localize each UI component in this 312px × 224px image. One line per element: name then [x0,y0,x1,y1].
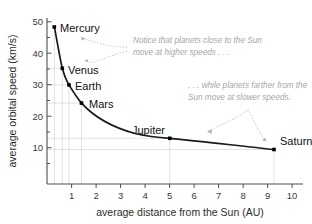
data-point-saturn[interactable] [272,148,276,152]
leader-to-mercury [82,38,127,47]
x-tick-label-3: 3 [118,190,123,201]
x-tick-label-1: 1 [69,190,74,201]
x-tick-label-7: 7 [216,190,221,201]
y-axis-title: average orbital speed (km/s) [6,34,18,167]
y-tick-label-30: 30 [32,79,43,90]
leader-to-jupiter [208,110,248,131]
data-point-earth[interactable] [67,83,71,87]
orbital-speed-chart: 50 40 30 20 10 1 2 3 4 5 6 7 8 9 10 aver… [0,0,312,224]
x-tick-label-10: 10 [287,190,298,201]
annotation-outer-line1: . . . while planets farther from the [188,81,308,90]
data-point-mars[interactable] [80,101,84,105]
x-tick-label-8: 8 [240,190,245,201]
y-tick-label-50: 50 [32,16,43,27]
arrowhead-mercury-icon [81,37,86,41]
arrowhead-jupiter-icon [207,129,212,134]
x-tick-label-5: 5 [167,190,172,201]
data-label-mercury: Mercury [60,22,100,34]
leader-to-venus [89,51,127,63]
x-axis-ticks [72,184,293,188]
data-point-jupiter[interactable] [168,137,172,141]
y-tick-label-20: 20 [32,111,43,122]
data-label-earth: Earth [75,80,101,92]
data-label-venus: Venus [68,64,99,76]
y-tick-label-40: 40 [32,48,43,59]
leader-to-saturn [248,110,266,141]
annotation-inner-line2: move at higher speeds . . . [133,48,229,57]
x-tick-label-2: 2 [93,190,98,201]
data-label-saturn: Saturn [280,135,312,147]
data-label-jupiter: Jupiter [132,124,165,136]
data-point-venus[interactable] [61,67,65,71]
y-axis-ticks [47,22,52,164]
x-tick-label-9: 9 [265,190,270,201]
chart-canvas: 50 40 30 20 10 1 2 3 4 5 6 7 8 9 10 aver… [0,0,312,224]
x-axis-title: average distance from the Sun (AU) [96,206,264,218]
data-point-mercury[interactable] [53,25,57,29]
annotation-inner-line1: Notice that planets close to the Sun [133,36,262,45]
arrowhead-venus-icon [84,59,88,62]
x-tick-label-6: 6 [191,190,196,201]
x-tick-label-4: 4 [142,190,147,201]
annotation-outer-line2: Sun move at slower speeds. [188,93,291,102]
y-tick-label-10: 10 [32,142,43,153]
data-label-mars: Mars [89,98,114,110]
